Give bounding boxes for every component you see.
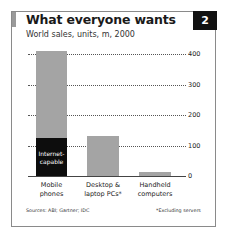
y-tick-400: 400 bbox=[188, 50, 200, 58]
accent-bar bbox=[12, 12, 16, 27]
y-tick-0: 0 bbox=[188, 172, 192, 180]
internet-capable-line-1: Internet- bbox=[36, 150, 67, 158]
chart-subtitle: World sales, units, m, 2000 bbox=[26, 30, 135, 39]
sources-note: Sources: ABI; Gartner; IDC bbox=[26, 208, 89, 213]
x-label-handheld-line-2: computers bbox=[129, 190, 181, 199]
y-tick-200: 200 bbox=[188, 111, 200, 119]
x-label-handheld: Handheld computers bbox=[129, 181, 181, 199]
chart-number-badge: 2 bbox=[193, 11, 217, 30]
x-label-mobile: Mobile phones bbox=[26, 181, 77, 199]
x-label-pcs-line-1: Desktop & bbox=[77, 181, 129, 190]
bar-desktop-laptop-pcs bbox=[87, 136, 119, 176]
y-tick-100: 100 bbox=[188, 142, 200, 150]
baseline bbox=[28, 176, 186, 177]
footnote: *Excluding servers bbox=[156, 208, 201, 213]
x-label-mobile-line-1: Mobile bbox=[26, 181, 77, 190]
x-label-pcs-line-2: laptop PCs* bbox=[77, 190, 129, 199]
internet-capable-line-2: capable bbox=[36, 158, 67, 166]
y-tick-300: 300 bbox=[188, 81, 200, 89]
internet-capable-label: Internet- capable bbox=[36, 150, 67, 166]
x-label-pcs: Desktop & laptop PCs* bbox=[77, 181, 129, 199]
chart-title: What everyone wants bbox=[26, 12, 176, 27]
x-label-handheld-line-1: Handheld bbox=[129, 181, 181, 190]
x-label-mobile-line-2: phones bbox=[26, 190, 77, 199]
